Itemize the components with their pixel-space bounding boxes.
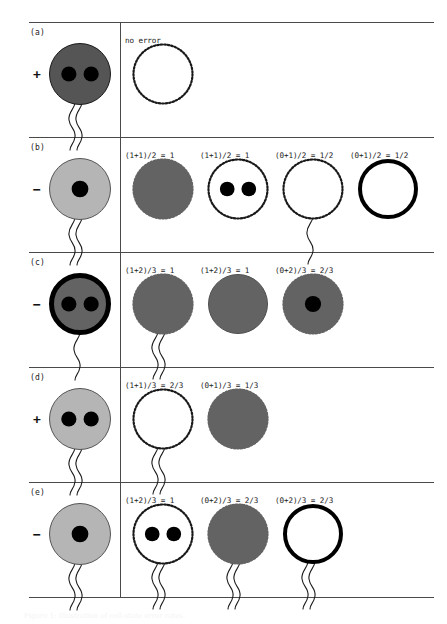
row-tag-e: (e) xyxy=(30,488,45,498)
outcome-b-2-nucleus-1 xyxy=(220,182,235,197)
source-cell-4-nucleus-1 xyxy=(72,526,89,543)
source-cell-2-body xyxy=(52,276,109,333)
source-cell-4-flagellum-1 xyxy=(69,563,75,610)
row-tag-c: (c) xyxy=(30,258,45,268)
outcome-e-1-flagellum-2 xyxy=(159,562,165,609)
row-tag-b: (b) xyxy=(30,143,45,153)
source-cell-e xyxy=(35,499,125,609)
source-cell-a xyxy=(35,39,125,149)
outcome-c-2-body xyxy=(209,275,268,334)
source-cell-b xyxy=(35,154,125,264)
source-cell-2-drawing xyxy=(35,269,125,379)
source-cell-2-nucleus-2 xyxy=(84,296,99,311)
outcome-e-2-flagellum-1 xyxy=(227,562,233,609)
outcome-e-1-body xyxy=(134,505,193,564)
outcome-c-3-nucleus-1 xyxy=(305,296,321,312)
row-tag-d: (d) xyxy=(30,373,45,383)
outcome-e-3-drawing xyxy=(268,500,358,610)
outcome-c-1-body xyxy=(134,275,193,334)
source-cell-0-body xyxy=(50,44,111,105)
source-cell-1-drawing xyxy=(35,154,125,264)
outcome-d-1-body xyxy=(134,390,193,449)
outcome-c-3-drawing xyxy=(268,270,358,380)
outcome-e-3-flagellum-1 xyxy=(302,562,308,609)
outcome-d-2-body xyxy=(209,390,268,449)
source-cell-4-drawing xyxy=(35,499,125,609)
figure-row-c: (c)−(1+2)/3 = 1(1+2)/3 = 1(0+2)/3 = 2/3 xyxy=(0,252,447,367)
figure-row-b: (b)−(1+1)/2 = 1(1+1)/2 = 1(0+1)/2 = 1/2(… xyxy=(0,137,447,252)
outcome-a-1 xyxy=(118,40,208,150)
source-cell-3-drawing xyxy=(35,384,125,494)
outcome-c-3 xyxy=(268,270,358,380)
outcome-a-1-drawing xyxy=(118,40,208,150)
outcome-b-4-drawing xyxy=(343,155,433,265)
outcome-e-1-flagellum-1 xyxy=(152,562,158,609)
outcome-a-1-body xyxy=(134,45,193,104)
outcome-b-4-body xyxy=(360,161,416,217)
outcome-d-2-drawing xyxy=(193,385,283,495)
source-cell-1-nucleus-1 xyxy=(72,181,89,198)
figure-caption: Figure 1: Illustration of cell-state err… xyxy=(24,612,424,621)
figure-row-d: (d)+(1+1)/3 = 2/3(0+1)/3 = 1/3 xyxy=(0,367,447,482)
outcome-e-3-flagellum-2 xyxy=(309,562,315,609)
outcome-b-3-body xyxy=(284,160,343,219)
source-cell-0-nucleus-1 xyxy=(61,66,76,81)
source-cell-2-nucleus-1 xyxy=(61,296,76,311)
outcome-e-3 xyxy=(268,500,358,610)
source-cell-0-drawing xyxy=(35,39,125,149)
outcome-b-4 xyxy=(343,155,433,265)
figure-row-e: (e)−(1+2)/3 = 1(0+2)/3 = 2/3(0+2)/3 = 2/… xyxy=(0,482,447,597)
outcome-e-3-body xyxy=(285,506,341,562)
source-cell-c xyxy=(35,269,125,379)
outcome-e-1-nucleus-1 xyxy=(145,527,160,542)
outcome-e-2-flagellum-2 xyxy=(234,562,240,609)
source-cell-0-nucleus-2 xyxy=(84,66,99,81)
outcome-b-2-body xyxy=(209,160,268,219)
outcome-b-2-nucleus-2 xyxy=(241,182,256,197)
outcome-d-2 xyxy=(193,385,283,495)
outcome-e-2-body xyxy=(209,505,268,564)
source-cell-3-nucleus-2 xyxy=(84,411,99,426)
row-tag-a: (a) xyxy=(30,28,45,38)
source-cell-4-flagellum-2 xyxy=(76,563,82,610)
outcome-e-1-nucleus-2 xyxy=(166,527,181,542)
figure-row-a: (a)+no error xyxy=(0,22,447,137)
outcome-b-1-body xyxy=(134,160,193,219)
source-cell-3-nucleus-1 xyxy=(61,411,76,426)
source-cell-3-body xyxy=(50,389,111,450)
source-cell-d xyxy=(35,384,125,494)
figure-panel: Figure 1: Illustration of cell-state err… xyxy=(0,0,447,624)
